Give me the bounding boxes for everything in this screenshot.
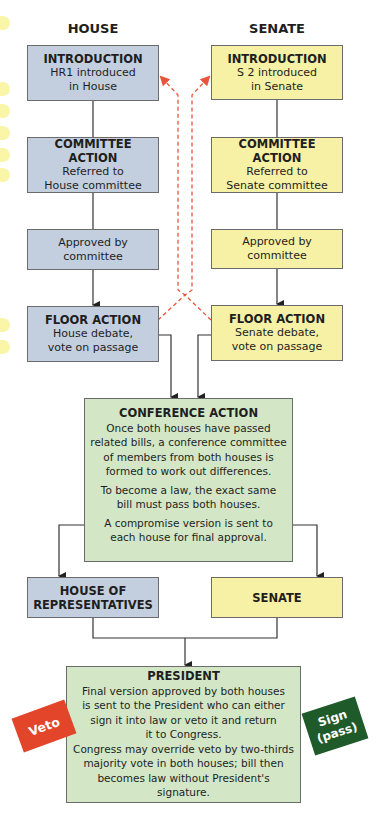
senate-floor-box: FLOOR ACTION Senate debate, vote on pass…: [211, 305, 343, 361]
senate-introduction-box: INTRODUCTION S 2 introduced in Senate: [211, 45, 343, 100]
step-title: FLOOR ACTION: [45, 313, 141, 327]
house-committee-box: COMMITTEE ACTION Referred to House commi…: [27, 137, 159, 193]
conference-action-box: CONFERENCE ACTION Once both houses have …: [84, 398, 293, 562]
conference-paragraph: Once both houses have passed related bil…: [90, 421, 286, 479]
senate-final-vote-box: SENATE: [211, 577, 343, 618]
step-body: Approved by committee: [58, 236, 128, 264]
conference-paragraph: To become a law, the exact same bill mus…: [101, 483, 276, 512]
conference-title: CONFERENCE ACTION: [119, 406, 258, 421]
president-title: PRESIDENT: [147, 669, 220, 684]
house-final-vote-box: HOUSE OF REPRESENTATIVES: [27, 577, 159, 618]
step-title: INTRODUCTION: [43, 52, 142, 66]
step-title: FLOOR ACTION: [229, 312, 325, 326]
step-body: Referred to Senate committee: [226, 165, 327, 193]
step-title: COMMITTEE ACTION: [32, 137, 154, 165]
conference-paragraph: A compromise version is sent to each hou…: [104, 516, 273, 545]
house-approved-box: Approved by committee: [27, 229, 159, 270]
president-box: PRESIDENT Final version approved by both…: [66, 666, 301, 803]
step-title: COMMITTEE ACTION: [216, 137, 338, 165]
step-body: House debate, vote on passage: [48, 327, 139, 355]
step-body: Senate debate, vote on passage: [232, 326, 323, 354]
step-body: Approved by committee: [242, 235, 312, 263]
house-floor-box: FLOOR ACTION House debate, vote on passa…: [27, 306, 159, 362]
senate-committee-box: COMMITTEE ACTION Referred to Senate comm…: [211, 137, 343, 193]
president-body: Final version approved by both houses is…: [71, 684, 296, 800]
step-body: HR1 introduced in House: [50, 66, 136, 94]
senate-approved-box: Approved by committee: [211, 229, 343, 269]
house-column-header: HOUSE: [23, 21, 163, 36]
step-title: INTRODUCTION: [227, 52, 326, 66]
step-body: Referred to House committee: [44, 165, 141, 193]
house-introduction-box: INTRODUCTION HR1 introduced in House: [27, 45, 159, 101]
step-body: S 2 introduced in Senate: [237, 66, 317, 94]
senate-column-header: SENATE: [207, 21, 347, 36]
house-final-vote-label: HOUSE OF REPRESENTATIVES: [33, 584, 153, 612]
senate-final-vote-label: SENATE: [252, 591, 301, 605]
